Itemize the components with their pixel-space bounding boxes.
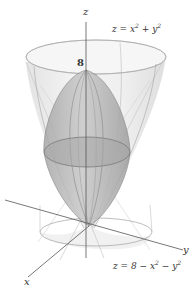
upward-paraboloid-equation: z = x2 + y2 [112, 25, 161, 34]
paraboloid-diagram: z 8 y x z = x2 + y2 z = 8 − x2 − y2 [0, 0, 193, 288]
z-axis-label: z [83, 7, 88, 17]
x-axis [28, 226, 89, 277]
surface-plot-graphic [0, 0, 193, 288]
y-axis-label: y [183, 245, 189, 255]
x-axis-label: x [24, 277, 30, 287]
downward-paraboloid-equation: z = 8 − x2 − y2 [113, 262, 181, 271]
z-tick-8-label: 8 [77, 58, 84, 68]
